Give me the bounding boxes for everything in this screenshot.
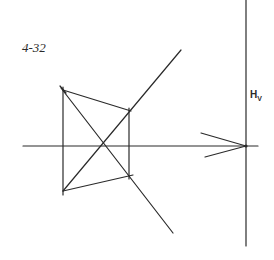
- figure-label: 4-32: [22, 40, 46, 56]
- top-edge-line: [63, 90, 131, 111]
- arrow-lower-line: [205, 146, 246, 157]
- diagonal-down-line: [61, 88, 173, 233]
- orthographic-diagram: [0, 0, 274, 260]
- diagonal-up-line: [63, 50, 181, 191]
- trace-label: HV: [250, 89, 262, 102]
- bottom-edge-line: [63, 175, 133, 191]
- arrow-vertex-point: [244, 144, 247, 147]
- arrow-upper-line: [201, 133, 246, 146]
